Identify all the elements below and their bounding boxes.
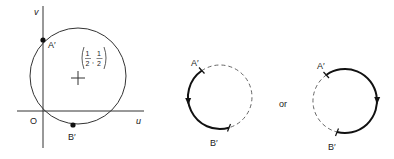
a-prime-label: A′	[317, 61, 325, 71]
diagram-canvas: v u O A′ B′ 1 2 , 1 2 A′ B′ or	[0, 0, 394, 159]
center-coordinate-label: 1 2 , 1 2	[82, 47, 106, 69]
dashed-arc	[202, 65, 252, 128]
svg-text:2: 2	[86, 60, 90, 67]
point-a-prime	[40, 37, 45, 42]
b-prime-label: B′	[68, 132, 76, 142]
dashed-arc	[313, 75, 337, 132]
solid-arc	[188, 71, 229, 129]
direction-arrow-icon	[374, 97, 380, 104]
left-panel: v u O A′ B′ 1 2 , 1 2	[17, 6, 144, 148]
middle-panel: A′ B′	[185, 58, 252, 148]
a-prime-label: A′	[48, 40, 56, 50]
b-prime-label: B′	[210, 138, 218, 148]
right-panel: A′ B′	[313, 61, 380, 152]
svg-text:1: 1	[86, 50, 90, 57]
v-axis-label: v	[34, 7, 39, 17]
point-b-prime	[70, 122, 75, 127]
svg-text:,: ,	[92, 57, 94, 64]
direction-arrow-icon	[185, 98, 191, 105]
svg-text:2: 2	[97, 60, 101, 67]
a-prime-label: A′	[191, 58, 199, 68]
u-axis-label: u	[136, 116, 141, 126]
origin-label: O	[30, 116, 37, 126]
solid-arc	[327, 69, 377, 133]
svg-text:1: 1	[97, 50, 101, 57]
b-prime-label: B′	[328, 142, 336, 152]
or-separator: or	[279, 99, 287, 109]
